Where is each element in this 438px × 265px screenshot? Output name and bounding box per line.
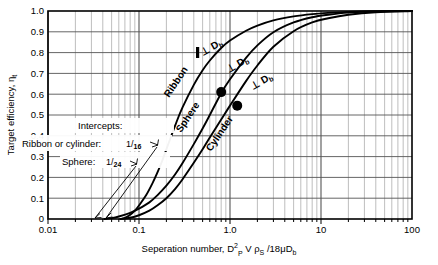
y-tick-label: 0.2	[31, 172, 44, 183]
y-tick-label: 0.1	[31, 193, 44, 204]
x-tick-label: 10	[316, 224, 327, 235]
y-tick-label: 0.5	[31, 109, 44, 120]
y-tick-label: 1.0	[31, 5, 44, 16]
target-efficiency-chart: 0.010.11.010100 00.10.20.30.40.50.60.70.…	[0, 0, 438, 265]
sphere-intercept-label: Sphere:	[62, 156, 95, 167]
marker-cylinder	[232, 101, 242, 111]
y-tick-label: 0	[39, 213, 44, 224]
marker-sphere	[216, 87, 226, 97]
x-tick-label: 0.1	[132, 224, 145, 235]
y-tick-label: 0.8	[31, 47, 44, 58]
ribbon-cylinder-intercept-label: Ribbon or cylinder:	[22, 138, 101, 149]
y-tick-label: 0.6	[31, 89, 44, 100]
x-tick-label: 1.0	[223, 224, 236, 235]
chart-figure: 0.010.11.010100 00.10.20.30.40.50.60.70.…	[0, 0, 438, 265]
x-tick-label: 0.01	[39, 224, 58, 235]
y-tick-label: 0.3	[31, 151, 44, 162]
y-tick-label: 0.7	[31, 68, 44, 79]
x-tick-label: 100	[404, 224, 420, 235]
intercepts-heading: Intercepts:	[78, 120, 122, 131]
y-tick-label: 0.9	[31, 26, 44, 37]
